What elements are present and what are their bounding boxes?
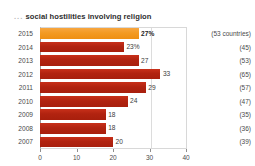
bar-row-2013: 27 — [40, 54, 187, 68]
y-label-2012: 2012 — [0, 68, 36, 82]
x-tick-mark-10 — [77, 149, 78, 152]
bar-2011 — [40, 82, 146, 93]
y-label-2011: 2011 — [0, 81, 36, 95]
country-count-2014: (45) — [191, 41, 253, 55]
bar-value-2007: 20 — [116, 137, 123, 146]
bar-value-2012: 33 — [163, 69, 170, 78]
x-axis: 0 10 20 30 40 — [40, 149, 187, 165]
bar-value-2011: 29 — [148, 83, 155, 92]
bar-rows: 27% 23% 27 33 29 24 18 18 — [40, 27, 187, 149]
bar-row-2012: 33 — [40, 68, 187, 82]
x-tick-mark-0 — [40, 149, 41, 152]
bar-2012 — [40, 69, 160, 80]
bar-value-2013: 27 — [141, 56, 148, 65]
bar-2010 — [40, 96, 128, 107]
bar-value-2014: 23% — [126, 42, 139, 51]
country-count-2010: (47) — [191, 95, 253, 109]
x-tick-label-20: 20 — [109, 153, 116, 162]
x-tick-mark-20 — [113, 149, 114, 152]
country-count-2009: (35) — [191, 108, 253, 122]
chart-title: ... social hostilities involving religio… — [14, 12, 151, 22]
bar-2015 — [40, 28, 139, 39]
country-count-2012: (65) — [191, 68, 253, 82]
bar-row-2011: 29 — [40, 81, 187, 95]
bar-row-2008: 18 — [40, 122, 187, 136]
country-count-2011: (57) — [191, 81, 253, 95]
x-tick-label-30: 30 — [146, 153, 153, 162]
bar-value-2008: 18 — [108, 123, 115, 132]
bar-2013 — [40, 55, 139, 66]
y-label-2007: 2007 — [0, 135, 36, 149]
bar-chart: ... social hostilities involving religio… — [0, 0, 255, 166]
y-axis-year-labels: 2015 2014 2013 2012 2011 2010 2009 2008 … — [0, 27, 36, 149]
y-label-2010: 2010 — [0, 95, 36, 109]
x-tick-label-40: 40 — [182, 153, 189, 162]
bar-row-2009: 18 — [40, 108, 187, 122]
country-count-2007: (39) — [191, 135, 253, 149]
bar-value-2015: 27% — [141, 29, 154, 38]
title-text: social hostilities involving religion — [26, 12, 152, 21]
bar-row-2014: 23% — [40, 41, 187, 55]
bar-row-2007: 20 — [40, 135, 187, 149]
y-label-2008: 2008 — [0, 122, 36, 136]
bar-2009 — [40, 109, 106, 120]
x-tick-label-0: 0 — [38, 153, 42, 162]
bar-2008 — [40, 123, 106, 134]
title-leading-dots: ... — [14, 12, 23, 21]
bar-value-2010: 24 — [130, 96, 137, 105]
country-count-labels: (53 countries) (45) (53) (65) (57) (47) … — [191, 27, 253, 149]
y-label-2014: 2014 — [0, 41, 36, 55]
country-count-2015: (53 countries) — [191, 27, 253, 41]
x-tick-mark-40 — [186, 149, 187, 152]
x-tick-mark-30 — [150, 149, 151, 152]
country-count-2008: (36) — [191, 122, 253, 136]
bar-2014 — [40, 42, 124, 53]
y-label-2013: 2013 — [0, 54, 36, 68]
y-label-2009: 2009 — [0, 108, 36, 122]
bar-2007 — [40, 137, 113, 148]
x-tick-label-10: 10 — [73, 153, 80, 162]
bar-row-2010: 24 — [40, 95, 187, 109]
country-count-2013: (53) — [191, 54, 253, 68]
bar-row-2015: 27% — [40, 27, 187, 41]
y-label-2015: 2015 — [0, 27, 36, 41]
bar-value-2009: 18 — [108, 110, 115, 119]
